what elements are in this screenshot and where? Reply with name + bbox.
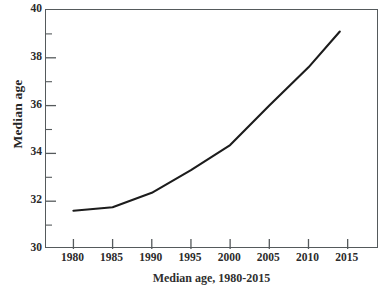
median-age-line <box>73 32 339 211</box>
plot-svg <box>46 10 379 249</box>
x-axis-tick-labels: 19801985199019952000200520102015 <box>45 252 378 268</box>
figure-caption: Median age, 1980-2015 <box>45 271 378 286</box>
y-axis-tick-label: 34 <box>16 146 42 158</box>
y-axis-tick-label: 36 <box>16 99 42 111</box>
y-axis-tick-label: 30 <box>16 242 42 254</box>
y-axis-tick-label: 40 <box>16 3 42 15</box>
y-axis-tick-label: 38 <box>16 51 42 63</box>
x-axis-tick-label: 2015 <box>324 252 370 264</box>
y-axis-tick-labels: 303234363840 <box>12 0 42 280</box>
x-axis-ticks <box>73 239 347 249</box>
y-axis-ticks <box>46 34 56 225</box>
plot-area <box>45 9 378 248</box>
y-axis-tick-label: 32 <box>16 194 42 206</box>
